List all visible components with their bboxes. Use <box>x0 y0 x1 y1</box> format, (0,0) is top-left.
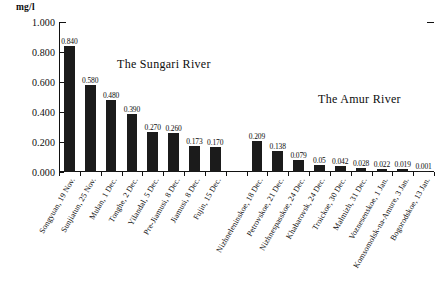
bar-value-label: 0.173 <box>183 137 205 146</box>
bar-value-label: 0.840 <box>58 37 80 46</box>
annotation-amur-river: The Amur River <box>318 92 401 107</box>
bar-value-label: 0.580 <box>79 76 101 85</box>
bar-value-label: 0.028 <box>350 159 372 168</box>
bar <box>147 132 158 173</box>
bar <box>397 169 408 172</box>
bar <box>356 168 367 172</box>
figure-caption <box>8 288 438 294</box>
annotation-sungari-river: The Sungari River <box>117 57 211 72</box>
bar <box>335 166 346 172</box>
bar <box>106 100 117 172</box>
bar <box>418 171 429 172</box>
bar <box>272 151 283 172</box>
bar <box>85 85 96 172</box>
bar <box>252 141 263 172</box>
x-axis-category-label-text: Bogorodskoe, 13 Jan. <box>388 176 431 242</box>
bar <box>189 146 200 172</box>
bar-value-label: 0.270 <box>142 123 164 132</box>
x-axis-category-labels: Songyuan, 19 Nov.Sunjiatun, 25 Nov.Mulan… <box>0 176 440 294</box>
chart-figure: mg/l 0.0000.2000.4000.6000.8001.000 0.84… <box>0 0 440 294</box>
bar-value-label: 0.390 <box>121 105 143 114</box>
bar-value-label: 0.209 <box>246 132 268 141</box>
bar <box>210 147 221 173</box>
bar-value-label: 0.260 <box>163 124 185 133</box>
y-axis-unit-label: mg/l <box>16 2 35 12</box>
bar-value-label: 0.480 <box>100 91 122 100</box>
y-axis-tick-label: 0.400 <box>32 107 55 118</box>
bar <box>64 46 75 172</box>
bar-value-label: 0.001 <box>413 162 435 171</box>
y-axis-tick-label: 1.000 <box>32 17 55 28</box>
y-axis-tick-label: 0.600 <box>32 77 55 88</box>
bar <box>314 165 325 173</box>
bar <box>293 160 304 172</box>
bar-value-label: 0.138 <box>267 142 289 151</box>
bar <box>168 133 179 172</box>
bar-value-label: 0.042 <box>329 157 351 166</box>
bar-value-label: 0.05 <box>308 156 330 165</box>
bar-value-label: 0.079 <box>288 151 310 160</box>
bar-value-label: 0.170 <box>204 138 226 147</box>
bar-value-label: 0.022 <box>371 160 393 169</box>
y-axis-tick-label: 0.200 <box>32 137 55 148</box>
y-axis-tick-label: 0.800 <box>32 47 55 58</box>
bar <box>127 114 138 173</box>
bar <box>377 169 388 172</box>
bar-value-label: 0.019 <box>392 160 414 169</box>
